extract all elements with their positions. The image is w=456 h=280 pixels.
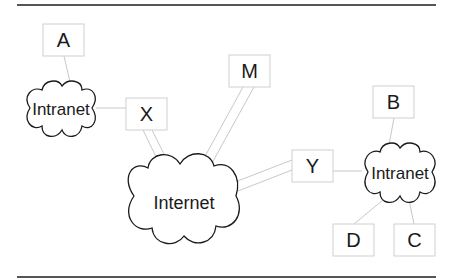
link-y-internet-2 <box>238 170 292 191</box>
cloud-internet: Internet <box>128 154 239 244</box>
link-a-intranet <box>64 56 70 82</box>
node-m: M <box>229 55 270 87</box>
node-label: X <box>140 103 153 125</box>
node-a: A <box>43 24 84 56</box>
link-y-internet-1 <box>235 160 292 182</box>
node-label: C <box>407 229 421 251</box>
link-m-internet-2 <box>212 87 254 163</box>
node-label: B <box>387 91 400 113</box>
link-m-internet-1 <box>203 87 243 160</box>
node-b: B <box>373 86 414 118</box>
link-d-intranet <box>354 200 383 224</box>
node-label: Y <box>306 155 319 177</box>
network-diagram: Intranet Internet Intranet A X M Y B D C <box>0 0 456 280</box>
node-label: A <box>57 29 71 51</box>
node-label: M <box>241 60 258 82</box>
link-b-intranet <box>389 118 394 145</box>
node-y: Y <box>292 150 333 182</box>
cloud-label: Internet <box>153 193 214 213</box>
node-x: X <box>126 98 167 130</box>
cloud-intranet-right: Intranet <box>365 143 435 202</box>
node-c: C <box>394 224 435 256</box>
cloud-label: Intranet <box>32 100 90 119</box>
cloud-label: Intranet <box>371 164 429 183</box>
node-d: D <box>333 224 374 256</box>
node-label: D <box>346 229 360 251</box>
link-c-intranet <box>409 200 414 224</box>
cloud-intranet-left: Intranet <box>27 81 95 136</box>
